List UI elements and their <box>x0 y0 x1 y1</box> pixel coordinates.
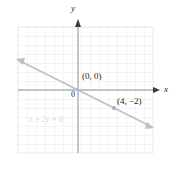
point-marker-4-neg2 <box>112 106 116 110</box>
equation-label: x + 2y = 0 <box>29 116 63 124</box>
point-label-origin: (0, 0) <box>82 72 102 81</box>
x-axis-label: x <box>164 85 168 94</box>
graph-canvas <box>0 0 175 175</box>
coordinate-graph-figure: y x 0 (0, 0) (4, −2) x + 2y = 0 <box>0 0 175 175</box>
x-axis-arrowhead <box>153 87 160 93</box>
y-axis-label: y <box>71 4 75 13</box>
y-axis-arrowhead <box>75 19 81 27</box>
point-label-4-neg2: (4, −2) <box>117 97 142 106</box>
origin-label: 0 <box>71 91 75 99</box>
